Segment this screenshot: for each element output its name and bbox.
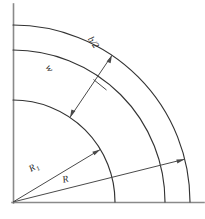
- inner-arc: [13, 100, 115, 202]
- quarter-annulus-diagram: b/2 w R 1 R: [0, 0, 205, 219]
- labels-group: b/2 w R 1 R: [26, 34, 101, 184]
- radial-dimension-line: [70, 55, 112, 117]
- outer-radius-label: R: [60, 173, 69, 184]
- r-dimension-line: [13, 159, 185, 202]
- r1-dimension-group: [13, 149, 100, 202]
- half-thickness-label: b/2: [86, 34, 101, 50]
- arcs-group: [13, 25, 190, 202]
- radial-dimension-group: [70, 55, 112, 117]
- r-dimension-group: [13, 159, 185, 202]
- r-arrowhead: [176, 159, 184, 163]
- figure-container: b/2 w R 1 R: [0, 0, 205, 219]
- r1-arrowhead: [92, 149, 100, 155]
- width-label: w: [44, 63, 56, 74]
- outer-arc: [13, 25, 190, 202]
- inner-radius-label-group: R 1: [26, 160, 41, 175]
- r1-dimension-line: [13, 149, 100, 202]
- middle-arc: [13, 50, 165, 202]
